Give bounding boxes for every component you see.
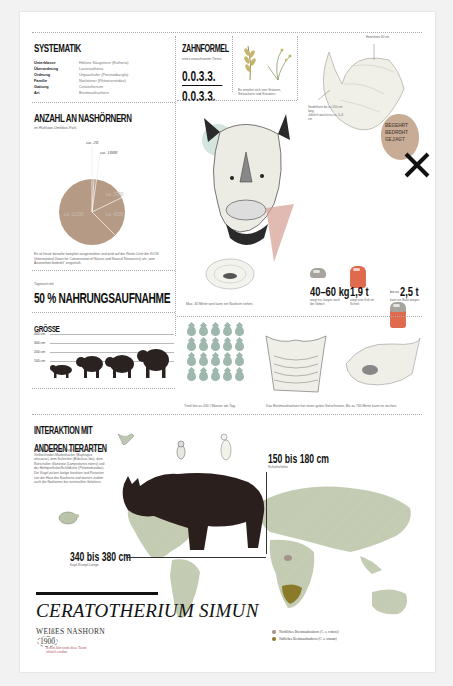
stamp-word: BEDROHT: [385, 129, 419, 136]
stamp-word: GEJAGT: [385, 136, 419, 143]
grass-icon: [238, 42, 298, 82]
water-drop-icon: [235, 341, 244, 351]
rhino-eye-sketch: [204, 254, 256, 294]
taxonomy-key: Art: [34, 90, 79, 96]
taxonomy-row: ArtBreitmaulnashorn: [34, 90, 129, 96]
horn-section: Hinterhorn 40 cm Vorderhorn bis zu 150 c…: [304, 34, 434, 184]
nahrung-headline: 50 % NAHRUNGSAUFNAHME: [34, 289, 170, 306]
divider: [32, 102, 175, 103]
elephant-silhouettes: [50, 342, 174, 378]
divider: [297, 36, 298, 100]
plants-illustration: Es ernährt sich von Gräsern, Sträuchern …: [238, 42, 298, 96]
divider: [177, 316, 422, 317]
pie-label-11000: ca. 11000: [64, 212, 83, 217]
rhino-silhouette: [118, 462, 268, 562]
water-drop-icon: [223, 371, 232, 381]
divider: [32, 388, 175, 389]
year-note: In dem Jahr wurde diese Tierart offiziel…: [46, 646, 96, 654]
water-drop-icon: [187, 326, 196, 336]
water-drop-icon: [235, 371, 244, 381]
water-drop-icon: [199, 371, 208, 381]
water-drop-icon: [199, 356, 208, 366]
systematik-section: SYSTEMATIK UnterklasseHöhere Säugetiere …: [34, 38, 129, 96]
systematik-title: SYSTEMATIK: [34, 42, 81, 54]
divider: [177, 100, 297, 101]
taxonomy-table: UnterklasseHöhere Säugetiere (Eutheria)Ü…: [34, 60, 129, 96]
rhino-mouth-sketch: [260, 330, 330, 400]
pie-label-1000: ca. 1000: [100, 150, 117, 155]
divider: [32, 270, 175, 271]
zahnformel-section: ZAHNFORMEL eines erwachsenen Tieres 0.0.…: [182, 38, 238, 104]
infographic-poster: SYSTEMATIK UnterklasseHöhere Säugetiere …: [20, 12, 435, 672]
water-drop-icon: [187, 371, 196, 381]
size-tick: 400 cm: [34, 332, 174, 336]
legend-swatch: [272, 630, 276, 634]
height-arrow: [266, 472, 267, 554]
horn-label-left: Vorderhorn bis zu 150 cm lang: [308, 106, 344, 113]
anzahl-caption: Es ist heute beinahe komplett ausgestorb…: [34, 252, 164, 266]
water-drop-icon: [211, 371, 220, 381]
car-icon: [310, 268, 326, 278]
nahrung-kicker: Tageszeit mit: [34, 282, 54, 287]
species-common-name: WEIßES NASHORN: [36, 627, 105, 636]
plant-caption: Es ernährt sich von Gräsern, Sträuchern …: [238, 88, 288, 96]
turtle-icon: [56, 508, 80, 528]
pie-label-2000: ca. 2000: [106, 192, 123, 197]
oxpecker-bird-icon: [174, 440, 188, 462]
legend-item: Südliches Breitmaulnashorn (C. s. simum): [272, 637, 339, 641]
divider: [32, 312, 175, 313]
rhino-nostril-sketch: [342, 334, 422, 390]
horn-label-growth: Jährlich wächst es ca. 5–6 cm: [308, 114, 344, 121]
water-drop-icon: [187, 356, 196, 366]
title-rule: [36, 592, 158, 595]
pie-svg: [52, 142, 152, 252]
water-drop-icon: [187, 341, 196, 351]
map-legend: Nördliches Breitmaulnashorn (C. s. cotto…: [272, 630, 339, 644]
pie-label-4000: ca. 4000: [106, 212, 123, 217]
water-drop-icon: [211, 341, 220, 351]
smell-caption: Das Breitmaulnashorn hat einen guten Ger…: [266, 404, 397, 409]
bird-icon: [116, 430, 136, 450]
anzahl-section: ANZAHL AN NASHÖRNERN im Hluhluwe-Umfoloz…: [34, 108, 174, 131]
zahnformel-title: ZAHNFORMEL: [182, 43, 229, 54]
horn-label-top: Hinterhorn 40 cm: [366, 36, 396, 40]
dental-formula-upper: 0.0.3.3.: [182, 68, 222, 86]
height-label: Schulterhöhe: [268, 465, 288, 470]
length-arrow: [126, 557, 266, 558]
water-drop-icon: [235, 326, 244, 336]
species-latin-name: CERATOTHERIUM SIMUN: [36, 600, 259, 622]
population-pie-chart: ca. 20 ca. 1000 ca. 2000 ca. 4000 ca. 11…: [52, 142, 152, 252]
water-drop-icon: [223, 326, 232, 336]
height-value: 150 bis 180 cm: [268, 452, 329, 466]
divider: [175, 36, 176, 336]
car-icon: [390, 302, 406, 312]
taxonomy-value: Breitmaulnashorn: [79, 90, 109, 96]
water-drop-icon: [223, 356, 232, 366]
pie-label-20: ca. 20: [86, 140, 98, 145]
divider: [232, 36, 233, 92]
anzahl-subtitle: im Hluhluwe-Umfolozi-Park: [34, 126, 174, 131]
cross-icon: [404, 152, 430, 178]
interaktion-body: Symbiotische Beziehungen gibt es mit dem…: [34, 448, 106, 485]
size-comparison: 400 cm300 cm200 cm100 cm: [34, 332, 174, 382]
car-icon: [350, 266, 366, 276]
length-label: Kopf-Rumpf-Länge: [70, 563, 99, 568]
water-drop-icon: [211, 356, 220, 366]
weight-stat: bis zu2,5 tkann ein Bulle wiegen: [390, 284, 426, 303]
water-drop-icon: [211, 326, 220, 336]
interaktion-title-1: INTERAKTION MIT: [34, 426, 92, 436]
water-caption: Trinkt bis zu 200 l Wasser am Tag.: [184, 404, 236, 409]
legend-item: Nördliches Breitmaulnashorn (C. s. cotto…: [272, 630, 339, 634]
divider: [32, 32, 422, 33]
water-drop-icon: [199, 326, 208, 336]
dental-formula-lower: 0.0.3.3.: [182, 88, 222, 104]
anzahl-title: ANZAHL AN NASHÖRNERN: [34, 112, 132, 124]
weight-car-chart: [310, 208, 430, 280]
water-drop-icon: [199, 341, 208, 351]
water-drops: [187, 326, 245, 381]
legend-swatch: [272, 637, 276, 641]
stamp-word: BEGEHRT: [385, 122, 419, 129]
divider: [32, 414, 422, 415]
zahnformel-subtitle: eines erwachsenen Tieres: [182, 57, 238, 62]
water-drop-icon: [223, 341, 232, 351]
